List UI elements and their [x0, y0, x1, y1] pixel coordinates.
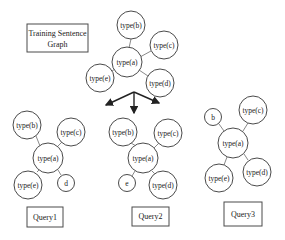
svg-text:type(e): type(e) [208, 174, 230, 183]
svg-text:d: d [64, 179, 68, 188]
query2-node-a: type(a) [128, 143, 158, 173]
diagram-canvas: Training Sentence Graph type(b) type(c) … [0, 0, 285, 240]
svg-text:Query1: Query1 [33, 213, 57, 222]
svg-text:type(b): type(b) [120, 21, 142, 30]
arrow-to-query1 [106, 92, 134, 105]
query1-node-a: type(a) [33, 143, 63, 173]
query1-label: Query1 [27, 207, 63, 227]
training-node-e: type(e) [86, 64, 114, 92]
query1-node-b: type(b) [13, 111, 41, 139]
svg-text:type(b): type(b) [16, 121, 38, 130]
query1-graph: type(b) type(c) type(a) type(e) d Query1 [13, 111, 85, 227]
svg-text:type(a): type(a) [222, 139, 244, 148]
query2-node-b: type(b) [109, 118, 137, 146]
svg-text:type(b): type(b) [112, 128, 134, 137]
training-node-c: type(c) [150, 31, 178, 59]
svg-text:type(c): type(c) [60, 128, 82, 137]
svg-text:type(a): type(a) [116, 58, 138, 67]
svg-text:type(c): type(c) [242, 106, 264, 115]
training-node-d: type(d) [146, 69, 174, 97]
svg-text:b: b [211, 113, 215, 122]
query3-node-b: b [205, 109, 222, 126]
query3-node-a: type(a) [218, 128, 248, 158]
query3-node-c: type(c) [239, 96, 267, 124]
svg-text:type(c): type(c) [153, 41, 175, 50]
svg-text:type(d): type(d) [152, 181, 174, 190]
svg-text:Query2: Query2 [139, 212, 163, 221]
svg-text:type(d): type(d) [149, 79, 171, 88]
query3-node-e: type(e) [205, 164, 233, 192]
query3-node-d: type(d) [243, 158, 271, 186]
svg-text:Graph: Graph [48, 40, 68, 49]
svg-text:type(e): type(e) [17, 181, 39, 190]
query3-label: Query3 [224, 202, 262, 226]
training-sentence-graph-label: Training Sentence Graph [27, 24, 88, 52]
svg-text:Training Sentence: Training Sentence [28, 29, 87, 38]
svg-text:type(c): type(c) [157, 129, 179, 138]
query1-node-d: d [58, 175, 75, 192]
query1-node-c: type(c) [57, 118, 85, 146]
training-node-a: type(a) [112, 47, 142, 77]
svg-text:type(e): type(e) [89, 74, 111, 83]
query2-graph: type(b) type(c) type(a) e type(d) Query2 [109, 118, 182, 226]
svg-text:type(a): type(a) [37, 154, 59, 163]
query3-graph: b type(c) type(a) type(e) type(d) Query3 [205, 96, 272, 226]
svg-text:type(d): type(d) [246, 168, 268, 177]
query1-node-e: type(e) [14, 171, 42, 199]
training-node-b: type(b) [117, 11, 145, 39]
svg-text:type(a): type(a) [132, 154, 154, 163]
branch-arrows [106, 92, 159, 113]
training-graph: type(b) type(c) type(a) type(e) type(d) [86, 11, 178, 97]
query2-label: Query2 [132, 207, 169, 226]
svg-text:Query3: Query3 [231, 210, 255, 219]
query2-node-d: type(d) [149, 171, 177, 199]
query2-node-e: e [119, 175, 136, 192]
query2-node-c: type(c) [154, 119, 182, 147]
